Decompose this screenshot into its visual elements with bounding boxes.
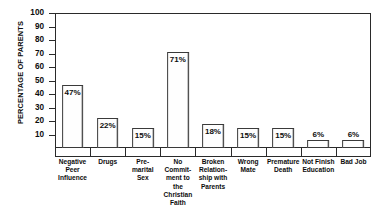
bar[interactable]: 15%: [237, 128, 259, 148]
category-divider: [301, 148, 302, 157]
bar[interactable]: 71%: [167, 52, 189, 148]
category-label: NegativePeerInfluence: [55, 158, 90, 183]
bar-value-label: 18%: [205, 127, 221, 136]
category-label: Bad Job: [336, 158, 371, 166]
bar-value-label: 15%: [275, 131, 291, 140]
bar-value-label: 47%: [65, 88, 81, 97]
bar[interactable]: 15%: [272, 128, 294, 148]
bar[interactable]: [343, 140, 365, 148]
bar-value-label: 71%: [170, 55, 186, 64]
y-axis-ticks: 100908070605040302010: [0, 0, 55, 210]
category-label: NoCommit-ment totheChristianFaith: [160, 158, 195, 207]
category-label: Pre-maritalSex: [125, 158, 160, 183]
bar-slot: 47%: [55, 13, 90, 148]
bar-value-label: 6%: [348, 130, 360, 139]
bar-slot: 15%: [125, 13, 160, 148]
y-tick-label-20: 20: [35, 117, 44, 125]
category-divider: [55, 148, 56, 157]
bars-layer: 47%22%15%71%18%15%15%6%6%: [55, 13, 371, 148]
category-label: BrokenRelation-ship withParents: [195, 158, 230, 191]
bar-chart: PERCENTAGE OF PARENTS 100908070605040302…: [0, 0, 384, 210]
category-divider: [336, 148, 337, 157]
y-tick-label-70: 70: [35, 50, 44, 58]
category-label: PrematureDeath: [266, 158, 301, 174]
category-label: WrongMate: [231, 158, 266, 174]
bar[interactable]: 15%: [132, 128, 154, 148]
y-tick-label-100: 100: [30, 9, 44, 17]
category-divider: [160, 148, 161, 157]
category-label: Drugs: [90, 158, 125, 166]
bar-value-label: 22%: [100, 121, 116, 130]
bar[interactable]: 22%: [97, 118, 119, 148]
category-label: Not FinishEducation: [301, 158, 336, 174]
y-tick-label-80: 80: [35, 36, 44, 44]
category-divider: [231, 148, 232, 157]
y-tick-label-30: 30: [35, 104, 44, 112]
category-divider: [266, 148, 267, 157]
category-divider: [125, 148, 126, 157]
bar-value-label: 15%: [240, 131, 256, 140]
category-divider-band: [55, 148, 371, 157]
y-tick-label-90: 90: [35, 23, 44, 31]
bar-value-label: 6%: [313, 130, 325, 139]
bar[interactable]: [307, 140, 329, 148]
y-tick-label-50: 50: [35, 77, 44, 85]
y-tick-label-60: 60: [35, 63, 44, 71]
y-tick-label-40: 40: [35, 90, 44, 98]
category-divider: [90, 148, 91, 157]
bar-slot: 15%: [266, 13, 301, 148]
bar-slot: 15%: [231, 13, 266, 148]
category-divider: [195, 148, 196, 157]
bar-slot: 71%: [160, 13, 195, 148]
bar[interactable]: 18%: [202, 124, 224, 148]
x-axis-category-labels: NegativePeerInfluenceDrugsPre-maritalSex…: [55, 158, 371, 210]
bar-slot: 18%: [195, 13, 230, 148]
bar-value-label: 15%: [135, 131, 151, 140]
bar-slot: 6%: [336, 13, 371, 148]
bar-slot: 22%: [90, 13, 125, 148]
bar[interactable]: 47%: [62, 85, 84, 148]
category-band-baseline: [55, 156, 371, 157]
category-divider: [370, 148, 371, 157]
y-tick-label-10: 10: [35, 131, 44, 139]
bar-slot: 6%: [301, 13, 336, 148]
